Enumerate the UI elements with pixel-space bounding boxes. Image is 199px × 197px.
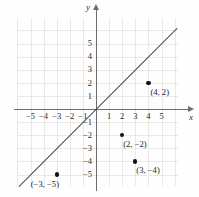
- coordinate-plane-figure: x y −5−4−3−2−11234554321−1−2−3−4−5 (4, 2…: [0, 0, 199, 197]
- y-tick-label: −3: [75, 144, 92, 153]
- grid-line-horizontal: [18, 44, 178, 45]
- data-point-label: (−3, −5): [31, 180, 59, 189]
- y-tick-label: 4: [75, 52, 92, 61]
- y-tick-label: 5: [75, 39, 92, 48]
- x-axis-label: x: [189, 113, 193, 122]
- data-point-label: (2, −2): [123, 140, 146, 149]
- y-tick-label: −1: [75, 118, 92, 127]
- y-tick-label: 2: [75, 79, 92, 88]
- y-tick-label: −2: [75, 131, 92, 140]
- data-point-marker: [55, 172, 59, 176]
- grid-line-horizontal: [18, 148, 178, 149]
- grid-line-horizontal: [18, 83, 178, 84]
- data-point-label: (3, −4): [136, 166, 159, 175]
- grid: [0, 0, 199, 197]
- y-tick-label: −4: [75, 157, 92, 166]
- y-axis: [96, 10, 97, 191]
- y-axis-arrow-icon: [93, 4, 99, 10]
- data-point-marker: [146, 81, 150, 85]
- y-axis-label: y: [86, 3, 90, 12]
- grid-line-horizontal: [18, 30, 178, 31]
- grid-line-horizontal: [18, 122, 178, 123]
- x-tick-label: 5: [153, 112, 171, 121]
- grid-line-horizontal: [18, 57, 178, 58]
- data-point-label: (4, 2): [150, 88, 169, 97]
- grid-line-horizontal: [18, 70, 178, 71]
- grid-line-horizontal: [18, 135, 178, 136]
- y-tick-label: 3: [75, 65, 92, 74]
- x-axis: [14, 109, 188, 110]
- y-tick-label: 1: [75, 92, 92, 101]
- y-tick-label: −5: [75, 170, 92, 179]
